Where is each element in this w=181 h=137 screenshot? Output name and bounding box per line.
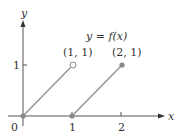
y-axis-arrow-icon (21, 20, 26, 27)
y-axis-label: y (20, 7, 28, 20)
x-axis-label: x (168, 110, 175, 123)
y-tick-label-1: 1 (13, 59, 20, 72)
origin-label: 0 (11, 121, 18, 134)
segment-1 (20, 62, 76, 119)
open-point-1-1 (70, 62, 76, 68)
function-label: y = f(x) (85, 30, 127, 43)
segment-2 (69, 62, 124, 118)
filled-point-1-0 (69, 113, 74, 118)
x-tick-label-1: 1 (69, 121, 76, 134)
segment-1-line (23, 68, 71, 117)
x-axis-arrow-icon (158, 114, 165, 119)
filled-point-origin (20, 113, 25, 118)
segment-2-line (72, 65, 122, 116)
filled-point-2-1 (119, 62, 124, 67)
point-label-2-1: (2, 1) (112, 46, 142, 59)
point-label-1-1: (1, 1) (63, 46, 93, 59)
x-tick-label-2: 2 (118, 121, 125, 134)
function-graph: x y 0 1 2 1 y = f(x) (1, 1) (2, 1) (0, 0, 181, 137)
